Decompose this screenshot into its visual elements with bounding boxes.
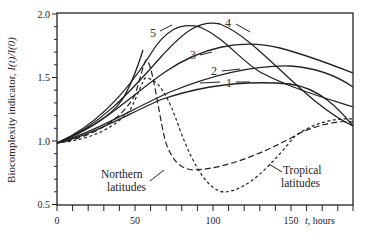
x-tick-0: 0 — [55, 215, 60, 226]
annotation-tropical-line1: Tropical — [283, 164, 322, 177]
x-tick-150: 150 — [284, 215, 299, 226]
chart: 2.0 1.5 1.0 0.5 0 50 100 150 t, hours Bi… — [0, 0, 369, 240]
y-tick-1.5: 1.5 — [38, 72, 51, 83]
y-tick-0.5: 0.5 — [38, 199, 51, 210]
annotation-northern-line2: latitudes — [107, 181, 146, 193]
curve-label-4: 4 — [225, 16, 231, 30]
x-axis-ticks — [57, 205, 353, 211]
curve-label-2: 2 — [211, 64, 217, 78]
curve-1 — [57, 83, 353, 143]
x-tick-50: 50 — [130, 215, 140, 226]
y-axis-title: Biocomplexity indicator, I(t)/I(0) — [5, 37, 18, 183]
curve-northern-latitudes — [57, 60, 353, 170]
x-axis-title: t, hours — [305, 215, 335, 226]
curve-label-1: 1 — [226, 76, 232, 90]
y-axis-ticks — [52, 14, 57, 205]
y-tick-2.0: 2.0 — [38, 9, 51, 20]
annotation-northern-line1: Northern — [101, 168, 143, 180]
curve-label-3: 3 — [190, 48, 196, 62]
y-tick-1.0: 1.0 — [38, 136, 51, 147]
annotation-tropical-line2: latitudes — [281, 177, 320, 189]
x-tick-100: 100 — [206, 215, 221, 226]
curve-label-5: 5 — [150, 26, 156, 40]
